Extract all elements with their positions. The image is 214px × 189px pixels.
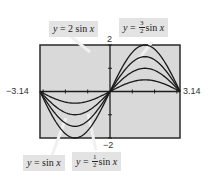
x-min-tick-label: −3.14 [6, 86, 29, 96]
label-sin-x: y = sin x [23, 155, 65, 171]
x-max-tick-label: 3.14 [183, 86, 201, 96]
label-var-x: x [90, 23, 94, 35]
label-eq: = sin [31, 157, 56, 169]
label-var-x: x [160, 22, 164, 34]
label-eq: = 2 sin [57, 23, 89, 35]
label-eq: = [80, 156, 91, 168]
y-min-tick-label: −2 [103, 140, 113, 150]
label-2-sin-x: y = 2 sin x [49, 21, 98, 37]
label-sin: sin [146, 22, 160, 34]
denominator: 2 [140, 28, 144, 35]
fraction-one-half: 12 [92, 154, 98, 169]
label-three-halves-sin-x: y = 32 sin x [119, 18, 168, 37]
denominator: 2 [93, 162, 97, 169]
label-var-x: x [113, 156, 117, 168]
fraction-three-halves: 32 [139, 20, 145, 35]
y-max-tick-label: 2 [107, 34, 112, 44]
label-half-sin-x: y = 12 sin x [72, 152, 121, 171]
label-var-x: x [56, 157, 60, 169]
label-eq: = [127, 22, 138, 34]
label-sin: sin [99, 156, 113, 168]
